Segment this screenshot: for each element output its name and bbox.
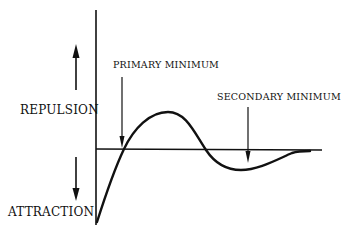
- primary-minimum-label: PRIMARY MINIMUM: [113, 59, 219, 70]
- potential-curve: [97, 112, 310, 222]
- attraction-arrow-icon: [73, 157, 80, 201]
- primary-minimum-pointer-icon: [120, 77, 125, 148]
- secondary-minimum-label: SECONDARY MINIMUM: [217, 91, 341, 102]
- secondary-minimum-pointer-icon: [246, 107, 251, 163]
- repulsion-arrow-icon: [73, 44, 80, 90]
- horizontal-axis: [96, 149, 322, 150]
- attraction-label: ATTRACTION: [8, 205, 94, 219]
- repulsion-label: REPULSION: [20, 103, 99, 117]
